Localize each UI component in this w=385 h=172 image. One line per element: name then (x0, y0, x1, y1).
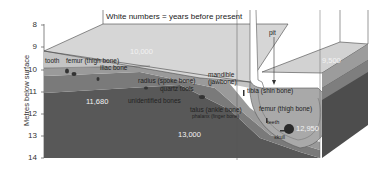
find-skull: skull (274, 135, 285, 141)
age-11680: 11,680 (86, 98, 108, 106)
pit-label: pit (269, 30, 276, 37)
find-unidentified-bones: unidentified bones (128, 98, 181, 105)
find-phalanx: phalanx (finger bone) (192, 114, 239, 119)
tick-9: 9 (23, 43, 37, 51)
tick-14: 14 (23, 154, 37, 162)
stratigraphy-diagram: White numbers = years before present Met… (0, 0, 385, 172)
find-iliac-bone: iliac bone (100, 65, 127, 72)
find-tooth: tooth (45, 58, 59, 65)
tick-11: 11 (23, 88, 37, 96)
depth-axis (41, 24, 44, 158)
tick-10: 10 (23, 66, 37, 74)
find-teeth: teeth (267, 120, 279, 126)
age-9500: 9,500 (322, 57, 341, 65)
age-10000: 10,000 (130, 48, 153, 56)
find-femur-right: femur (thigh bone) (259, 106, 312, 113)
tick-8: 8 (23, 21, 37, 29)
legend-note: White numbers = years before present (106, 12, 242, 21)
age-12950: 12,950 (296, 125, 319, 133)
find-quartz-tools: quartz tools (160, 86, 194, 93)
tick-12: 12 (23, 110, 37, 118)
find-mandible-sub: (jawbone) (208, 79, 237, 86)
find-radius: radius (spoke bone) (138, 78, 195, 85)
tick-13: 13 (23, 132, 37, 140)
find-tibia: tibia (shin bone) (247, 88, 293, 95)
age-13000: 13,000 (178, 131, 201, 139)
